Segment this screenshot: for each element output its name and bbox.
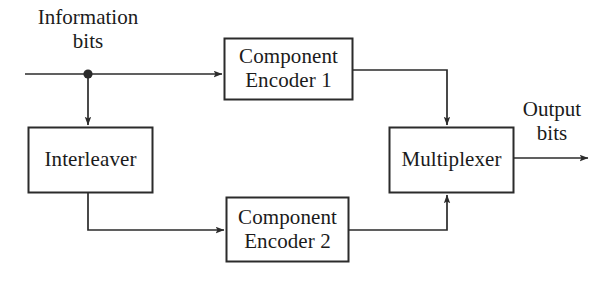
block-component-encoder-2-box (227, 198, 349, 262)
branch-node-dot (83, 69, 92, 78)
block-multiplexer-box (390, 128, 514, 193)
connector-encoder-2-to-multiplexer (348, 195, 447, 230)
block-diagram: Component Encoder 1 Interleaver Componen… (0, 0, 611, 281)
block-interleaver-box (29, 128, 153, 193)
connector-encoder-1-to-multiplexer (352, 70, 447, 125)
label-information-bits: Information bits (8, 6, 168, 53)
label-information-bits-line1: Information (8, 6, 168, 30)
label-output-bits-line1: Output (500, 98, 604, 122)
label-output-bits-line2: bits (500, 122, 604, 146)
label-output-bits: Output bits (500, 98, 604, 145)
label-information-bits-line2: bits (8, 30, 168, 54)
block-component-encoder-1-box (225, 39, 353, 100)
connector-interleaver-to-encoder-2 (88, 192, 224, 230)
